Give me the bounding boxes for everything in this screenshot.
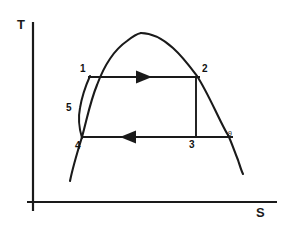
- dome-right-tail: [228, 135, 243, 174]
- saturation-dome-curve: [70, 33, 243, 181]
- arrow-right-head-icon: [136, 71, 152, 84]
- process-line-1-2: [88, 71, 200, 84]
- arrow-left-head-icon: [120, 131, 136, 144]
- dome-right-branch: [141, 33, 228, 135]
- state-point-label-5: 5: [66, 103, 72, 113]
- y-axis-label: T: [17, 18, 25, 31]
- state-point-label-3: 3: [189, 140, 195, 150]
- ts-diagram-figure: T S 1 2 3 4 5 9: [0, 0, 290, 228]
- state-point-label-4: 4: [75, 141, 81, 151]
- process-line-3-4: [82, 131, 233, 144]
- state-point-label-1: 1: [80, 64, 86, 74]
- state-point-label-9: 9: [228, 130, 232, 137]
- ts-diagram-canvas: [0, 0, 290, 228]
- axes-group: [27, 22, 277, 211]
- state-point-label-2: 2: [202, 64, 208, 74]
- x-axis-label: S: [256, 206, 265, 219]
